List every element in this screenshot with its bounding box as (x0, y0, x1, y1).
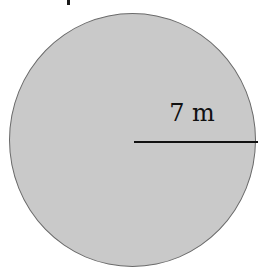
circle-shape (9, 13, 256, 267)
radius-line (134, 141, 258, 143)
stray-mark (67, 0, 70, 5)
radius-label: 7 m (160, 98, 224, 128)
diagram-canvas: 7 m (0, 0, 264, 273)
